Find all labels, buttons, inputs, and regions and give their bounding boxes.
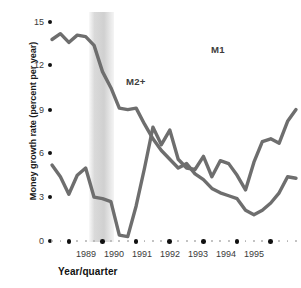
x-tick-dot-major [235,239,240,244]
series-line-m1 [52,110,296,237]
x-axis-title: Year/quarter [58,266,118,277]
x-tick-dot-major [268,239,273,244]
series-lines [0,0,301,288]
x-tick-dot-minor [211,240,213,242]
x-tick-dot-minor [85,240,87,242]
x-tick-dot-major [201,239,206,244]
plot-area [0,0,301,288]
x-tick-label-1995: 1995 [237,249,271,259]
series-line-m2plus [52,34,296,215]
x-tick-dot-minor [228,240,230,242]
x-tick-dot-minor [186,240,188,242]
series-annotation-m1: M1 [211,44,225,55]
x-tick-dot-minor [127,240,129,242]
x-tick-dot-minor [110,240,112,242]
series-annotation-m2plus: M2+ [126,76,146,87]
money-growth-rate-chart: Money growth rate (percent per year) 15 … [0,0,301,288]
x-tick-dot-major [167,239,172,244]
x-tick-dot-major [100,239,105,244]
x-tick-dot-major [67,239,72,244]
x-tick-dot-major [134,239,139,244]
